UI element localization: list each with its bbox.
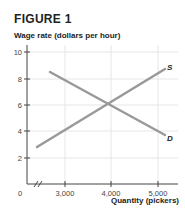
x-tick-5000: 5,000 xyxy=(149,189,168,198)
x-tick-4000: 4,000 xyxy=(102,189,121,198)
y-tick-2: 2 xyxy=(18,154,22,163)
x-tick-3000: 3,000 xyxy=(56,189,75,198)
gridlines xyxy=(27,45,178,184)
y-tick-4: 4 xyxy=(18,127,22,136)
axes xyxy=(24,45,178,187)
supply-label: S xyxy=(167,63,173,72)
y-tick-8: 8 xyxy=(18,75,22,84)
y-tick-6: 6 xyxy=(18,101,22,110)
x-tick-0: 0 xyxy=(18,189,22,198)
y-tick-10: 10 xyxy=(14,48,22,57)
demand-label: D xyxy=(167,134,173,143)
chart-plot: 10 8 6 4 2 0 3,000 4,000 5,000 S D xyxy=(0,0,185,215)
supply-curve xyxy=(37,69,165,147)
